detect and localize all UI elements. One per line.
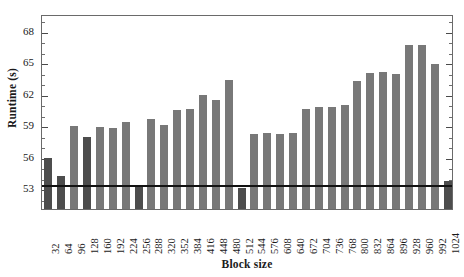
x-axis-tick-label: 288 (154, 238, 165, 254)
x-axis-tick-label: 544 (257, 238, 268, 254)
bar-series (42, 16, 452, 209)
x-axis-tick-label: 32 (51, 244, 62, 255)
runtime-vs-block-size-bar-chart: Runtime (s) 535659626568 326496128160192… (0, 0, 464, 277)
bar (57, 176, 65, 210)
x-axis-tick-label: 704 (322, 238, 333, 254)
bar (328, 107, 336, 210)
x-axis-tick-label: 608 (283, 238, 294, 254)
bar (225, 80, 233, 210)
x-axis-tick-label-group: 3264961281601922242562883203523844164484… (41, 212, 453, 256)
x-axis-title: Block size (41, 258, 453, 270)
x-axis-tick-label: 832 (373, 238, 384, 254)
y-axis-tick-label: 59 (0, 120, 34, 131)
bar (212, 100, 220, 210)
x-axis-tick-label: 416 (206, 238, 217, 254)
bar (379, 72, 387, 210)
x-axis-tick-label: 192 (116, 238, 127, 254)
x-axis-tick-label: 896 (399, 238, 410, 254)
bar (238, 188, 246, 210)
x-axis-tick-label: 640 (296, 238, 307, 254)
y-axis-tick-label: 65 (0, 57, 34, 68)
bar (353, 81, 361, 210)
bar (70, 126, 78, 210)
bar (289, 133, 297, 210)
x-axis-tick-label: 160 (103, 238, 114, 254)
y-axis-tick-label: 53 (0, 183, 34, 194)
x-axis-tick-label: 768 (348, 238, 359, 254)
bar (431, 64, 439, 210)
x-axis-tick-label: 928 (412, 238, 423, 254)
bar (109, 128, 117, 210)
bar (392, 74, 400, 210)
x-axis-tick-label: 320 (167, 238, 178, 254)
x-axis-tick-label: 992 (438, 238, 449, 254)
bar (96, 127, 104, 210)
bar (366, 73, 374, 210)
bar (135, 185, 143, 210)
bar (199, 95, 207, 210)
bar (263, 133, 271, 210)
x-axis-tick-label: 96 (77, 244, 88, 255)
x-axis-tick-label: 800 (360, 238, 371, 254)
y-axis-tick-label: 62 (0, 89, 34, 100)
bar (83, 137, 91, 210)
x-axis-tick-label: 864 (386, 238, 397, 254)
x-axis-tick-label: 1024 (451, 233, 462, 254)
bar (315, 107, 323, 210)
x-axis-tick-label: 672 (309, 238, 320, 254)
bar (276, 134, 284, 210)
x-axis-tick-label: 448 (219, 238, 230, 254)
y-axis-tick-label: 68 (0, 26, 34, 37)
x-axis-tick-label: 960 (425, 238, 436, 254)
plot-area (41, 15, 453, 210)
bar (122, 122, 130, 210)
bar (186, 109, 194, 210)
x-axis-tick-label: 352 (180, 238, 191, 254)
bar (173, 110, 181, 210)
x-axis-tick-label: 256 (142, 238, 153, 254)
bar (341, 105, 349, 210)
bar (44, 158, 52, 210)
baseline-reference-line (42, 185, 452, 187)
x-axis-tick-label: 576 (270, 238, 281, 254)
x-axis-tick-label: 384 (193, 238, 204, 254)
bar (147, 119, 155, 210)
x-axis-tick-label: 128 (90, 238, 101, 254)
bar (160, 125, 168, 210)
x-axis-tick-label: 64 (64, 244, 75, 255)
y-axis-tick-label: 56 (0, 152, 34, 163)
x-axis-tick-label: 736 (335, 238, 346, 254)
x-axis-tick-label: 512 (245, 238, 256, 254)
x-axis-tick-label: 224 (129, 238, 140, 254)
bar (302, 109, 310, 210)
bar (250, 134, 258, 210)
x-axis-tick-label: 480 (232, 238, 243, 254)
